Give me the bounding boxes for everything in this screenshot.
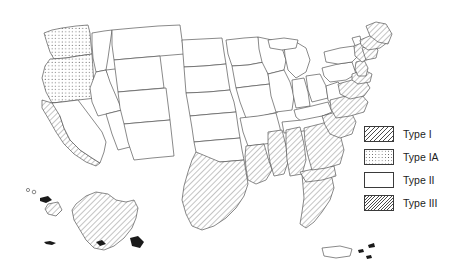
state-wyoming: [114, 56, 164, 92]
state-new-york: [324, 46, 358, 64]
inset-hawaii-oahu: [32, 190, 36, 194]
state-idaho: [92, 30, 112, 72]
inset-hawaii-maui: [40, 196, 52, 203]
legend-swatch-type-ii: [364, 172, 394, 188]
legend: Type I Type IA Type II Type III: [364, 122, 456, 214]
legend-item-type-iii: Type III: [364, 191, 456, 214]
state-south-dakota: [184, 64, 230, 93]
state-alabama: [286, 127, 306, 176]
inset-hawaii-kauai: [26, 188, 29, 191]
state-north-dakota: [182, 38, 226, 67]
inset-alaska-aleutians: [44, 241, 56, 245]
state-new-mexico: [124, 120, 174, 160]
inset-alaska-panhandle: [130, 236, 144, 248]
legend-item-type-ii: Type II: [364, 168, 456, 191]
state-new-jersey: [355, 60, 368, 76]
map-figure: Type I Type IA Type II Type III: [0, 0, 456, 280]
state-louisiana: [245, 144, 272, 184]
legend-item-type-ia: Type IA: [364, 145, 456, 168]
inset-alaska: [72, 192, 138, 250]
legend-label-type-iii: Type III: [403, 196, 437, 210]
state-texas: [182, 152, 248, 230]
state-nebraska: [186, 90, 236, 116]
inset-virgin-islands-2: [368, 243, 375, 248]
state-pennsylvania: [322, 62, 356, 82]
state-colorado: [118, 88, 170, 124]
legend-swatch-type-iii: [364, 195, 394, 211]
inset-hawaii-bigisland: [45, 202, 62, 216]
legend-swatch-type-i: [364, 126, 394, 142]
state-ohio: [306, 74, 328, 102]
states-layer: [26, 22, 392, 259]
state-kansas: [190, 112, 240, 142]
inset-virgin-islands: [358, 249, 364, 253]
state-michigan-up: [268, 38, 298, 50]
legend-label-type-ia: Type IA: [403, 150, 439, 164]
state-oregon: [42, 54, 96, 103]
state-washington: [44, 25, 92, 59]
legend-item-type-i: Type I: [364, 122, 456, 145]
inset-puerto-rico: [322, 246, 352, 258]
legend-swatch-type-ia: [364, 149, 394, 165]
legend-label-type-ii: Type II: [403, 173, 435, 187]
state-montana: [112, 25, 184, 60]
inset-virgin-islands-3: [366, 255, 372, 259]
legend-label-type-i: Type I: [403, 127, 432, 141]
